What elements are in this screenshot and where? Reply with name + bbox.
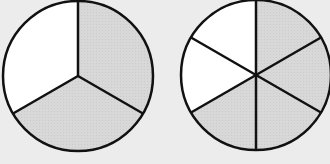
fraction-diagram: [0, 0, 330, 164]
thirds-circle: [3, 1, 153, 151]
sixths-circle: [181, 0, 330, 150]
